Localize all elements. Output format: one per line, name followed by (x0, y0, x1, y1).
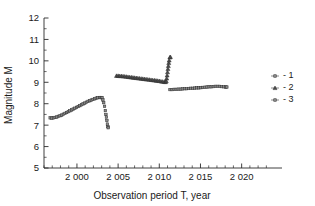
legend-label: - 1 (283, 70, 294, 80)
legend-marker-square-icon (274, 99, 277, 102)
legend-marker-square-icon (274, 75, 277, 78)
legend-label: - 3 (283, 94, 294, 104)
y-tick-label: 7 (34, 120, 39, 131)
legend-item-3[interactable]: - 3 (271, 94, 294, 104)
y-tick-label: 12 (28, 12, 39, 23)
x-tick-label: 2 010 (147, 171, 171, 182)
y-axis-title: Magnitude M (3, 66, 14, 124)
x-tick-label: 2 000 (65, 171, 89, 182)
y-tick-label: 6 (34, 141, 39, 152)
data-series-1 (49, 96, 110, 129)
legend-item-2[interactable]: - 2 (271, 82, 294, 92)
x-tick-label: 2 005 (106, 171, 130, 182)
y-tick-label: 11 (29, 34, 39, 45)
chart-legend: - 1- 2- 3 (271, 70, 294, 104)
x-tick-label: 2 020 (230, 171, 254, 182)
data-series-2 (114, 55, 172, 84)
x-tick-label: 2 015 (189, 171, 213, 182)
y-tick-label: 5 (34, 162, 39, 173)
chart-figure: 567891011122 0002 0052 0102 0152 020 - 1… (0, 0, 315, 206)
legend-item-1[interactable]: - 1 (271, 70, 294, 80)
legend-label: - 2 (283, 82, 294, 92)
y-tick-label: 10 (28, 55, 39, 66)
y-tick-label: 9 (34, 77, 39, 88)
scatter-plot: 567891011122 0002 0052 0102 0152 020 - 1… (0, 0, 315, 206)
x-axis-title: Observation period T, year (93, 190, 211, 201)
data-series-group (49, 55, 228, 129)
axes: 567891011122 0002 0052 0102 0152 020 (28, 12, 282, 182)
data-series-3 (169, 85, 228, 91)
y-tick-label: 8 (34, 98, 39, 109)
